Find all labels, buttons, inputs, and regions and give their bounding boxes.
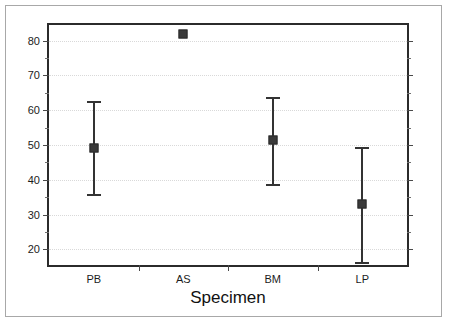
- plot-area: 20304050607080PBASBMLP: [47, 23, 409, 267]
- gridline: [49, 75, 407, 76]
- data-point-marker: [358, 200, 367, 209]
- gridlines-layer: [49, 25, 407, 265]
- chart-figure: 20304050607080PBASBMLP Specimen: [0, 0, 453, 328]
- error-bar-stem: [272, 97, 274, 184]
- error-bar-cap-lower: [355, 262, 369, 264]
- data-point-marker: [179, 29, 188, 38]
- gridline: [49, 215, 407, 216]
- error-bar-cap-upper: [355, 147, 369, 149]
- data-point-marker: [89, 143, 98, 152]
- gridline: [49, 180, 407, 181]
- data-point-marker: [268, 136, 277, 145]
- x-axis-title: Specimen: [47, 288, 409, 308]
- gridline: [49, 110, 407, 111]
- error-bar-cap-lower: [87, 194, 101, 196]
- gridline: [49, 249, 407, 250]
- error-bar-stem: [361, 147, 363, 262]
- data-points-layer: [49, 25, 407, 265]
- error-bar-cap-lower: [266, 184, 280, 186]
- error-bar-cap-upper: [266, 97, 280, 99]
- error-bar-cap-upper: [87, 101, 101, 103]
- error-bar-stem: [93, 101, 95, 195]
- gridline: [49, 145, 407, 146]
- axis-ticks-layer: 20304050607080PBASBMLP: [49, 25, 407, 265]
- gridline: [49, 41, 407, 42]
